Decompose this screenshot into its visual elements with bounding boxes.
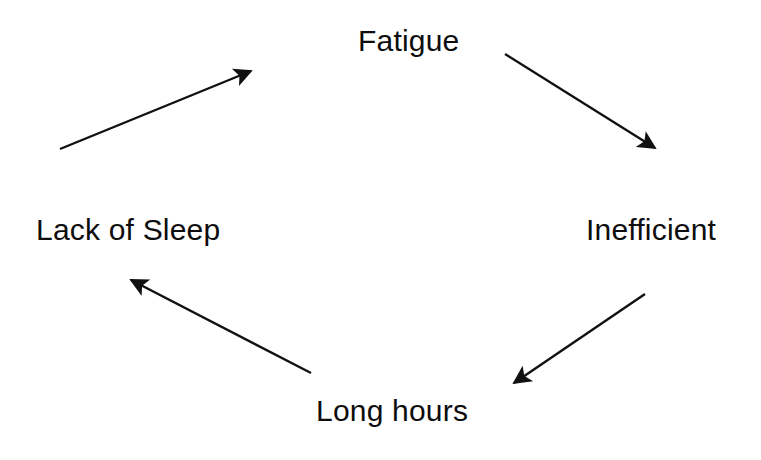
node-label-fatigue: Fatigue bbox=[358, 26, 459, 56]
arrow-fatigue-to-inefficient bbox=[505, 54, 655, 148]
node-label-lack-of-sleep: Lack of Sleep bbox=[36, 215, 220, 245]
arrow-lack-of-sleep-to-fatigue bbox=[60, 71, 251, 149]
diagram-canvas: Fatigue Inefficient Long hours Lack of S… bbox=[0, 0, 761, 460]
arrow-inefficient-to-long-hours bbox=[514, 294, 645, 383]
node-label-inefficient: Inefficient bbox=[586, 215, 716, 245]
node-label-long-hours: Long hours bbox=[316, 396, 468, 426]
arrow-long-hours-to-lack-of-sleep bbox=[131, 280, 311, 373]
